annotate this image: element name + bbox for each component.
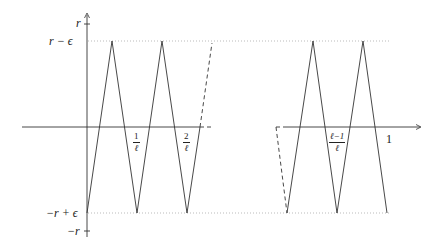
sawtooth-left-dashed — [200, 43, 212, 127]
label-two-over-l: 2 ℓ — [183, 132, 190, 153]
frac-den: ℓ — [133, 143, 140, 153]
frac-num: 2 — [183, 132, 190, 143]
label-neg-r-plus-eps: −r + ϵ — [46, 207, 78, 219]
label-r-minus-eps: r − ϵ — [49, 35, 73, 47]
frac-num: ℓ−1 — [329, 132, 345, 143]
frac-den: ℓ — [183, 143, 190, 153]
label-one: 1 — [386, 133, 392, 145]
sawtooth-right-dashed — [276, 127, 287, 213]
label-r: r — [76, 17, 81, 29]
frac-num: 1 — [133, 132, 140, 143]
frac-den: ℓ — [329, 143, 345, 153]
label-l-minus-1-over-l: ℓ−1 ℓ — [329, 132, 345, 153]
label-one-over-l: 1 ℓ — [133, 132, 140, 153]
label-neg-r: −r — [67, 225, 80, 237]
